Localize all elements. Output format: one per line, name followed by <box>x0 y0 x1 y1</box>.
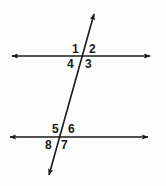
angle-label-4: 4 <box>67 58 74 70</box>
geometry-figure: 1 2 3 4 5 6 7 8 <box>0 0 166 186</box>
transversal-line <box>49 14 94 175</box>
angle-label-2: 2 <box>89 43 96 55</box>
angle-label-5: 5 <box>52 123 59 135</box>
angle-label-3: 3 <box>85 58 92 70</box>
angle-label-1: 1 <box>72 43 79 55</box>
angle-label-8: 8 <box>45 139 52 151</box>
figure-canvas <box>0 0 166 186</box>
angle-label-7: 7 <box>61 139 68 151</box>
angle-label-6: 6 <box>68 123 75 135</box>
